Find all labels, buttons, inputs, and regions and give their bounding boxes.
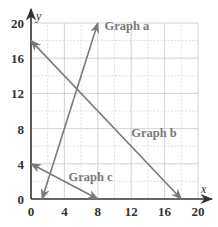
series-label-graph-b: Graph b	[131, 126, 177, 140]
x-tick-label: 8	[95, 204, 102, 219]
series-label-graph-a: Graph a	[104, 19, 150, 33]
y-tick-label: 4	[18, 157, 25, 172]
x-tick-label: 0	[28, 204, 35, 219]
y-tick-label: 8	[18, 122, 25, 137]
series-labels: Graph aGraph bGraph c	[69, 19, 177, 184]
y-tick-label: 20	[11, 16, 24, 31]
x-tick-label: 4	[61, 204, 68, 219]
series-label-graph-c: Graph c	[69, 170, 114, 184]
x-tick-label: 12	[125, 204, 138, 219]
y-tick-label: 16	[11, 51, 25, 66]
axes: xy	[31, 9, 212, 199]
tick-labels: 048121620048121620	[11, 16, 205, 219]
y-tick-label: 12	[11, 86, 24, 101]
x-tick-label: 20	[192, 204, 205, 219]
x-axis-label: x	[200, 182, 207, 196]
x-tick-label: 16	[158, 204, 172, 219]
line-chart: xy 048121620048121620 Graph aGraph bGrap…	[0, 0, 218, 227]
grid-lines	[31, 23, 198, 199]
y-axis-label: y	[35, 9, 42, 23]
y-tick-label: 0	[18, 192, 25, 207]
